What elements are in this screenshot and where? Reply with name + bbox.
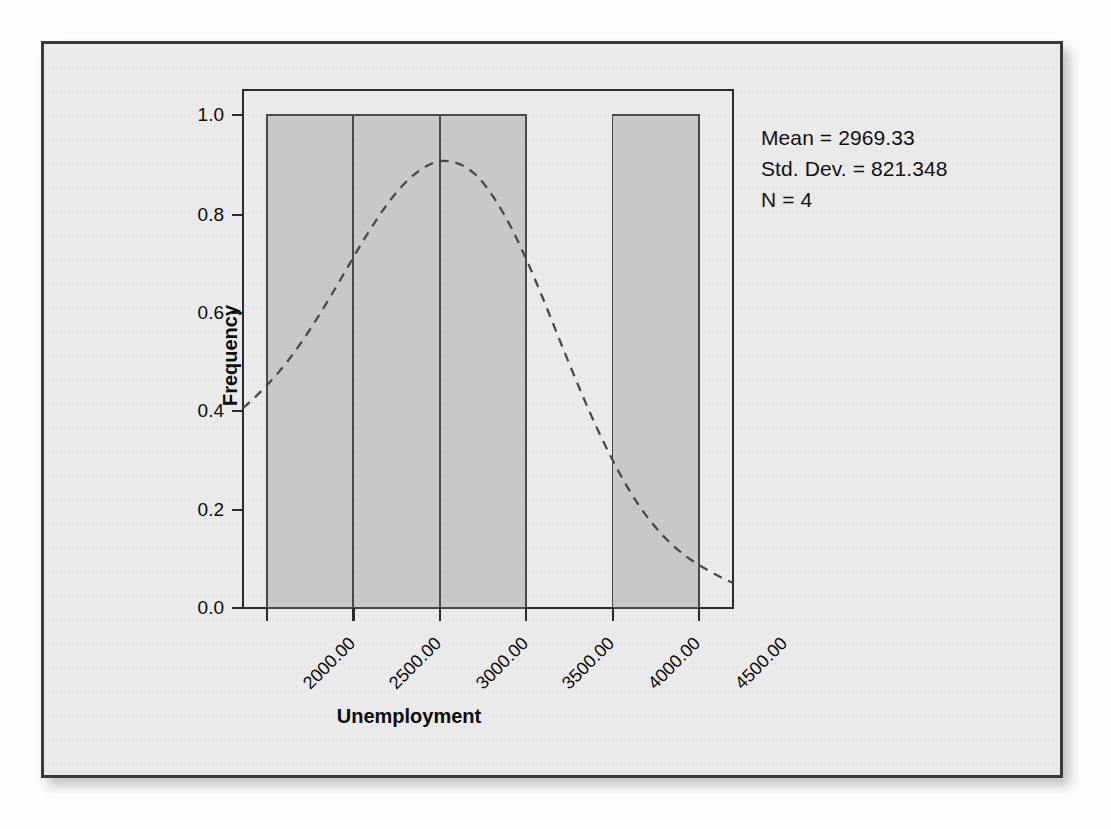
y-tick-label-0.0: 0.0 bbox=[172, 597, 224, 619]
y-axis-title: Frequency bbox=[219, 291, 242, 421]
x-axis-ticks bbox=[267, 608, 699, 621]
y-tick-label-0.6: 0.6 bbox=[172, 302, 224, 324]
y-tick-label-1.0: 1.0 bbox=[172, 104, 224, 126]
chart-figure-frame: 1.0 0.8 0.6 0.4 0.2 0.0 2000.00 2500.00 … bbox=[41, 41, 1063, 778]
table-row bbox=[353, 115, 439, 608]
table-row bbox=[267, 115, 353, 608]
table-row bbox=[613, 115, 699, 608]
y-tick-label-0.8: 0.8 bbox=[172, 204, 224, 226]
stat-mean: Mean = 2969.33 bbox=[761, 122, 948, 153]
stat-std-dev: Std. Dev. = 821.348 bbox=[761, 153, 948, 184]
y-tick-label-0.2: 0.2 bbox=[172, 499, 224, 521]
histogram-chart: 1.0 0.8 0.6 0.4 0.2 0.0 2000.00 2500.00 … bbox=[44, 44, 1060, 775]
x-axis-title: Unemployment bbox=[44, 705, 774, 728]
y-tick-label-0.4: 0.4 bbox=[172, 400, 224, 422]
scanned-page: 1.0 0.8 0.6 0.4 0.2 0.0 2000.00 2500.00 … bbox=[0, 0, 1111, 829]
stat-n: N = 4 bbox=[761, 184, 948, 215]
histogram-bars bbox=[267, 115, 699, 608]
table-row bbox=[440, 115, 526, 608]
statistics-annotation: Mean = 2969.33 Std. Dev. = 821.348 N = 4 bbox=[761, 122, 948, 215]
